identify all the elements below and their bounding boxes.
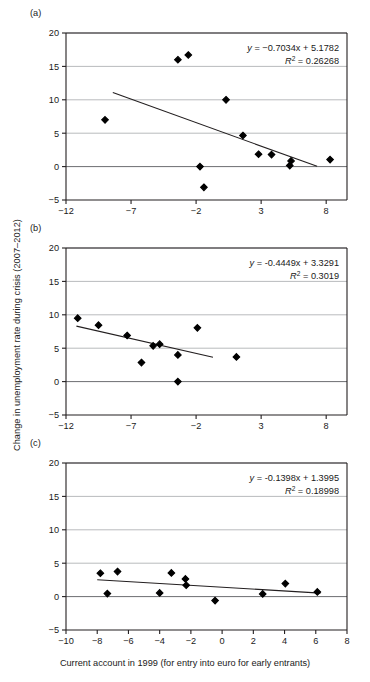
data-point xyxy=(175,352,182,359)
data-point xyxy=(182,576,189,583)
x-tick-label: 8 xyxy=(324,421,329,430)
y-tick-label: 15 xyxy=(49,62,59,72)
data-point xyxy=(223,97,230,104)
x-tick-label: 6 xyxy=(313,636,318,646)
y-tick-label: 20 xyxy=(49,243,59,253)
panel-b-tag: (b) xyxy=(30,223,41,233)
y-tick-label: 20 xyxy=(49,28,59,38)
x-tick-label: 4 xyxy=(282,636,287,646)
regression-annotation: y = -0.1398x + 1.3995R2 = 0.18998 xyxy=(249,473,339,496)
x-tick-label: −7 xyxy=(126,206,136,215)
data-point xyxy=(201,184,208,191)
panel-b-plot: −505101520−12−7−238y = -0.4449x + 3.3291… xyxy=(0,215,370,430)
panel-a: (a) −505101520−12−7−238y = −0.7034x + 5.… xyxy=(0,0,370,215)
y-tick-label: 10 xyxy=(49,95,59,105)
data-point xyxy=(114,568,121,575)
data-point xyxy=(175,56,182,63)
y-tick-label: 0 xyxy=(54,377,59,387)
regression-line xyxy=(113,93,317,167)
x-axis-label: Current account in 1999 (for entry into … xyxy=(0,658,370,668)
panel-a-tag: (a) xyxy=(30,8,41,18)
data-point xyxy=(233,354,240,361)
y-tick-label: 10 xyxy=(49,310,59,320)
equation-text: y = −0.7034x + 5.1782 xyxy=(246,43,339,53)
y-tick-label: −5 xyxy=(49,625,59,635)
data-point xyxy=(212,597,219,604)
y-tick-label: 0 xyxy=(54,162,59,172)
data-point xyxy=(314,589,321,596)
data-point xyxy=(175,378,182,385)
panel-c: (c) −505101520−10−8−6−4−202468y = -0.139… xyxy=(0,430,370,655)
panel-c-plot: −505101520−10−8−6−4−202468y = -0.1398x +… xyxy=(0,430,370,655)
equation-text: y = -0.1398x + 1.3995 xyxy=(249,473,339,483)
x-tick-label: 3 xyxy=(259,421,264,430)
r-squared-text: R2 = 0.26268 xyxy=(285,55,339,66)
y-tick-label: −5 xyxy=(49,195,59,205)
y-tick-label: 5 xyxy=(54,129,59,139)
r-squared-text: R2 = 0.3019 xyxy=(290,270,339,281)
data-point xyxy=(156,341,163,348)
data-point xyxy=(102,117,109,124)
x-tick-label: 0 xyxy=(220,636,225,646)
data-point xyxy=(183,582,190,589)
x-tick-label: −8 xyxy=(92,636,102,646)
x-tick-label: 2 xyxy=(251,636,256,646)
x-tick-label: −6 xyxy=(123,636,133,646)
data-point xyxy=(156,590,163,597)
x-tick-label: −2 xyxy=(191,206,201,215)
data-point xyxy=(268,151,275,158)
data-point xyxy=(327,156,334,163)
y-tick-label: 20 xyxy=(49,458,59,468)
x-tick-label: −2 xyxy=(186,636,196,646)
data-point xyxy=(197,163,204,170)
x-tick-label: −12 xyxy=(58,206,74,215)
y-tick-label: −5 xyxy=(49,410,59,420)
y-tick-label: 10 xyxy=(49,525,59,535)
y-tick-label: 5 xyxy=(54,344,59,354)
equation-text: y = -0.4449x + 3.3291 xyxy=(249,258,339,268)
x-tick-label: −12 xyxy=(58,421,74,430)
x-tick-label: −10 xyxy=(58,636,74,646)
panel-c-tag: (c) xyxy=(30,438,41,448)
y-tick-label: 15 xyxy=(49,277,59,287)
y-tick-label: 5 xyxy=(54,559,59,569)
data-point xyxy=(168,570,175,577)
data-point xyxy=(255,151,262,158)
x-tick-label: 8 xyxy=(344,636,349,646)
data-point xyxy=(74,315,81,322)
y-tick-label: 0 xyxy=(54,592,59,602)
x-tick-label: −4 xyxy=(154,636,164,646)
data-point xyxy=(138,359,145,366)
data-point xyxy=(185,52,192,59)
data-point xyxy=(282,580,289,587)
y-tick-label: 15 xyxy=(49,492,59,502)
data-point xyxy=(194,325,201,332)
x-tick-label: −7 xyxy=(126,421,136,430)
x-tick-label: −2 xyxy=(191,421,201,430)
regression-line xyxy=(76,326,213,357)
figure-container: Change in unemployment rate during crisi… xyxy=(0,0,370,682)
regression-annotation: y = -0.4449x + 3.3291R2 = 0.3019 xyxy=(249,258,339,281)
r-squared-text: R2 = 0.18998 xyxy=(285,485,339,496)
regression-annotation: y = −0.7034x + 5.1782R2 = 0.26268 xyxy=(246,43,339,66)
panel-a-plot: −505101520−12−7−238y = −0.7034x + 5.1782… xyxy=(0,0,370,215)
panel-b: (b) −505101520−12−7−238y = -0.4449x + 3.… xyxy=(0,215,370,430)
x-tick-label: 8 xyxy=(324,206,329,215)
data-point xyxy=(95,322,102,329)
x-tick-label: 3 xyxy=(259,206,264,215)
data-point xyxy=(97,570,104,577)
data-point xyxy=(104,590,111,597)
